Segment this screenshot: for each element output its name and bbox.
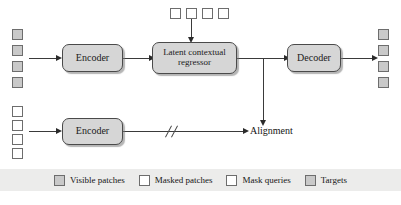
legend-item-visible-patches: Visible patches bbox=[54, 175, 139, 186]
edge-regressor-to-decoder bbox=[237, 58, 284, 59]
legend-swatch-targets bbox=[305, 175, 316, 186]
node-encoder-bottom-label: Encoder bbox=[74, 126, 111, 137]
node-encoder-bottom[interactable]: Encoder bbox=[62, 118, 123, 145]
patch-target-4 bbox=[378, 77, 389, 88]
arrowhead-encoder-bottom-to-alignment bbox=[243, 128, 249, 134]
patch-target-3 bbox=[378, 61, 389, 72]
patch-masked-1 bbox=[12, 106, 23, 117]
edge-encoder-to-regressor bbox=[123, 58, 149, 59]
patch-visible-2 bbox=[12, 45, 23, 56]
patch-visible-3 bbox=[12, 61, 23, 72]
legend-item-targets: Targets bbox=[305, 175, 347, 186]
legend-swatch-visible-patches bbox=[54, 175, 65, 186]
patch-mask-query-2 bbox=[186, 8, 197, 19]
patch-mask-query-3 bbox=[202, 8, 213, 19]
legend-item-mask-queries: Mask queries bbox=[226, 175, 304, 186]
patch-visible-4 bbox=[12, 77, 23, 88]
node-encoder-top[interactable]: Encoder bbox=[62, 44, 123, 72]
node-latent-contextual-regressor[interactable]: Latent contextual regressor bbox=[152, 42, 237, 74]
label-alignment: Alignment bbox=[250, 125, 293, 136]
edge-encoder-bottom-to-alignment bbox=[123, 131, 243, 132]
legend-swatch-masked-patches bbox=[139, 175, 150, 186]
patch-masked-4 bbox=[12, 148, 23, 159]
node-decoder[interactable]: Decoder bbox=[287, 44, 341, 72]
patch-mask-query-1 bbox=[170, 8, 181, 19]
edge-decoder-to-targets bbox=[341, 58, 372, 59]
legend-item-masked-patches: Masked patches bbox=[139, 175, 227, 186]
patch-masked-3 bbox=[12, 134, 23, 145]
legend-label-masked-patches: Masked patches bbox=[155, 175, 213, 185]
node-regressor-label-line2: regressor bbox=[176, 58, 213, 68]
patch-target-2 bbox=[378, 45, 389, 56]
arrowhead-decoder-to-targets bbox=[372, 55, 378, 61]
patch-masked-2 bbox=[12, 120, 23, 131]
legend-label-mask-queries: Mask queries bbox=[242, 175, 290, 185]
edge-input-to-encoder-bottom bbox=[29, 131, 56, 132]
legend-label-visible-patches: Visible patches bbox=[70, 175, 125, 185]
legend-swatch-mask-queries bbox=[226, 175, 237, 186]
legend: Visible patches Masked patches Mask quer… bbox=[0, 169, 401, 191]
patch-visible-1 bbox=[12, 29, 23, 40]
legend-label-targets: Targets bbox=[321, 175, 347, 185]
node-encoder-top-label: Encoder bbox=[74, 53, 111, 64]
edge-mask-queries-to-regressor bbox=[191, 19, 192, 37]
edge-input-to-encoder-top bbox=[29, 58, 56, 59]
patch-mask-query-4 bbox=[218, 8, 229, 19]
node-decoder-label: Decoder bbox=[295, 53, 333, 64]
edge-regressor-to-alignment bbox=[263, 58, 264, 120]
diagram-canvas: Encoder Latent contextual regressor Deco… bbox=[0, 0, 401, 205]
patch-target-1 bbox=[378, 29, 389, 40]
